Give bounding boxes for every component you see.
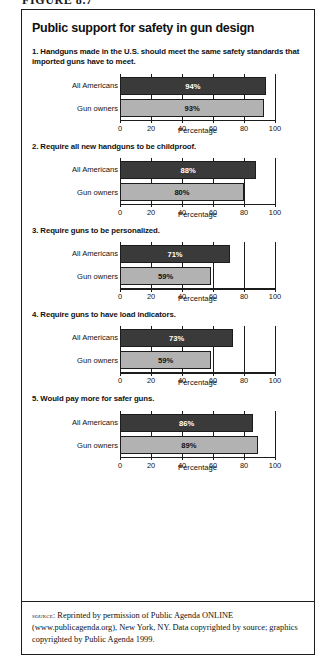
question-panel: 3. Require guns to be personalized.All A… bbox=[32, 226, 304, 306]
bar-value-label: 89% bbox=[181, 440, 196, 449]
axis-title: Percentage bbox=[120, 463, 275, 472]
category-label: Gun owners bbox=[38, 441, 118, 450]
axis-tick bbox=[275, 372, 276, 376]
bar-value-label: 86% bbox=[179, 418, 194, 427]
figure-content: Public support for safety in gun design … bbox=[22, 10, 314, 475]
plot-area: 02040608010094%93% bbox=[120, 74, 275, 122]
figure-number: FIGURE 8.7 bbox=[22, 0, 93, 8]
axis-title: Percentage bbox=[120, 126, 275, 135]
category-label: All Americans bbox=[38, 249, 118, 258]
axis-tick bbox=[275, 457, 276, 461]
bar: 94% bbox=[120, 77, 266, 95]
bar: 71% bbox=[120, 245, 230, 263]
axis-line bbox=[120, 288, 275, 290]
gridline bbox=[275, 158, 276, 204]
bar-value-label: 59% bbox=[158, 356, 173, 365]
category-label: Gun owners bbox=[38, 188, 118, 197]
gridline bbox=[244, 242, 245, 288]
question-text: 3. Require guns to be personalized. bbox=[32, 226, 304, 236]
bar-value-label: 88% bbox=[181, 165, 196, 174]
figure-box: Public support for safety in gun design … bbox=[21, 9, 315, 655]
question-panel: 5. Would pay more for safer guns.All Ame… bbox=[32, 394, 304, 474]
question-text: 5. Would pay more for safer guns. bbox=[32, 394, 304, 404]
bar-value-label: 94% bbox=[185, 81, 200, 90]
bar-chart: All AmericansGun owners02040608010086%89… bbox=[32, 411, 304, 475]
category-label: All Americans bbox=[38, 81, 118, 90]
axis-title: Percentage bbox=[120, 378, 275, 387]
bar: 80% bbox=[120, 183, 244, 201]
gridline bbox=[275, 74, 276, 120]
question-panel: 1. Handguns made in the U.S. should meet… bbox=[32, 47, 304, 138]
axis-line bbox=[120, 120, 275, 122]
bar-chart: All AmericansGun owners02040608010088%80… bbox=[32, 158, 304, 222]
category-label: All Americans bbox=[38, 333, 118, 342]
plot-area: 02040608010073%59% bbox=[120, 326, 275, 374]
bar: 93% bbox=[120, 99, 264, 117]
axis-line bbox=[120, 457, 275, 459]
plot-area: 02040608010088%80% bbox=[120, 158, 275, 206]
question-panels: 1. Handguns made in the U.S. should meet… bbox=[32, 47, 304, 475]
page-title: Public support for safety in gun design bbox=[32, 21, 304, 36]
question-panel: 2. Require all new handguns to be childp… bbox=[32, 142, 304, 222]
category-label: Gun owners bbox=[38, 104, 118, 113]
bar: 73% bbox=[120, 329, 233, 347]
question-text: 2. Require all new handguns to be childp… bbox=[32, 142, 304, 152]
source-divider bbox=[22, 601, 314, 602]
question-text: 1. Handguns made in the U.S. should meet… bbox=[32, 47, 304, 68]
bar: 86% bbox=[120, 414, 253, 432]
gridline bbox=[275, 242, 276, 288]
source-note: source: Reprinted by permission of Publi… bbox=[32, 610, 305, 646]
bar-chart: All AmericansGun owners02040608010094%93… bbox=[32, 74, 304, 138]
bar: 59% bbox=[120, 267, 211, 285]
axis-title: Percentage bbox=[120, 210, 275, 219]
bar: 88% bbox=[120, 161, 256, 179]
bar-value-label: 71% bbox=[167, 250, 182, 259]
source-text: Reprinted by permission of Public Agenda… bbox=[32, 611, 298, 644]
bar-chart: All AmericansGun owners02040608010071%59… bbox=[32, 242, 304, 306]
plot-area: 02040608010086%89% bbox=[120, 411, 275, 459]
axis-line bbox=[120, 204, 275, 206]
category-label: All Americans bbox=[38, 165, 118, 174]
question-text: 4. Require guns to have load indicators. bbox=[32, 310, 304, 320]
axis-tick bbox=[275, 120, 276, 124]
category-label: Gun owners bbox=[38, 272, 118, 281]
axis-title: Percentage bbox=[120, 294, 275, 303]
plot-area: 02040608010071%59% bbox=[120, 242, 275, 290]
bar-value-label: 59% bbox=[158, 272, 173, 281]
bar-value-label: 80% bbox=[174, 187, 189, 196]
axis-tick bbox=[275, 288, 276, 292]
gridline bbox=[244, 326, 245, 372]
category-label: Gun owners bbox=[38, 356, 118, 365]
axis-line bbox=[120, 372, 275, 374]
bar: 59% bbox=[120, 351, 211, 369]
bar-chart: All AmericansGun owners02040608010073%59… bbox=[32, 326, 304, 390]
category-label: All Americans bbox=[38, 418, 118, 427]
gridline bbox=[275, 326, 276, 372]
gridline bbox=[275, 411, 276, 457]
bar-value-label: 93% bbox=[184, 103, 199, 112]
question-panel: 4. Require guns to have load indicators.… bbox=[32, 310, 304, 390]
bar: 89% bbox=[120, 436, 258, 454]
source-label: source: bbox=[32, 611, 55, 620]
bar-value-label: 73% bbox=[169, 334, 184, 343]
axis-tick bbox=[275, 204, 276, 208]
